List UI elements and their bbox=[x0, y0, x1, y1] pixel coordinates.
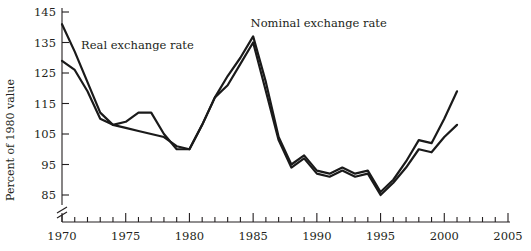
x-tick-label: 1975 bbox=[111, 229, 140, 243]
x-tick-label: 1990 bbox=[302, 229, 331, 243]
real-exchange-rate-label: Real exchange rate bbox=[81, 38, 194, 52]
x-tick-label: 2000 bbox=[430, 229, 459, 243]
nominal-exchange-rate-label: Nominal exchange rate bbox=[251, 16, 387, 30]
x-tick-label: 2005 bbox=[493, 229, 522, 243]
y-tick-label: 105 bbox=[34, 127, 56, 141]
y-tick-label: 115 bbox=[34, 97, 56, 111]
exchange-rate-line-chart: 8595105115125135145 19701975198019851990… bbox=[0, 0, 531, 251]
y-tick-label: 95 bbox=[41, 158, 56, 172]
y-tick-label: 125 bbox=[34, 66, 56, 80]
y-axis-title: Percent of 1980 value bbox=[4, 79, 17, 201]
x-tick-label: 1970 bbox=[47, 229, 76, 243]
x-tick-label: 1980 bbox=[175, 229, 204, 243]
x-tick-label: 1995 bbox=[366, 229, 395, 243]
plot-background bbox=[0, 0, 531, 251]
y-tick-label: 145 bbox=[34, 5, 56, 19]
chart-canvas: 8595105115125135145 19701975198019851990… bbox=[0, 0, 531, 251]
y-tick-label: 135 bbox=[34, 36, 56, 50]
x-tick-label: 1985 bbox=[239, 229, 268, 243]
y-tick-label: 85 bbox=[41, 188, 56, 202]
